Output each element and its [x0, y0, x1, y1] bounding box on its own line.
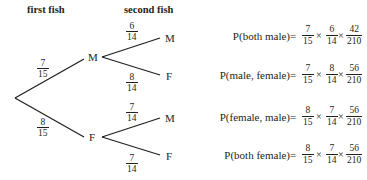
fraction-2: 814 — [326, 63, 338, 85]
fraction-1: 815 — [302, 105, 314, 127]
equation-lhs: P(both female) — [224, 149, 290, 161]
times-sign: × — [316, 149, 322, 160]
equation-lhs: P(male, female) — [220, 69, 290, 81]
times-sign: × — [338, 30, 344, 41]
equation-male-female: P(male, female) = 715 × 814 × 56210 — [0, 63, 367, 89]
fraction-3: 56210 — [346, 63, 362, 85]
times-sign: × — [338, 69, 344, 80]
fraction-3: 56210 — [346, 105, 362, 127]
equals-sign: = — [290, 69, 296, 81]
node-first-m: M — [88, 52, 98, 63]
fraction-3: 42210 — [346, 24, 362, 46]
times-sign: × — [338, 149, 344, 160]
fraction-1: 715 — [302, 24, 314, 46]
equals-sign: = — [290, 149, 296, 161]
fraction-3: 56210 — [346, 143, 362, 165]
times-sign: × — [338, 111, 344, 122]
equals-sign: = — [290, 30, 296, 42]
equation-both-female: P(both female) = 815 × 714 × 56210 — [0, 143, 367, 169]
equation-lhs: P(both male) — [233, 30, 290, 42]
fraction-2: 714 — [326, 105, 338, 127]
times-sign: × — [316, 69, 322, 80]
times-sign: × — [316, 30, 322, 41]
fraction-1: 815 — [302, 143, 314, 165]
equation-both-male: P(both male) = 715 × 614 × 42210 — [0, 24, 367, 50]
equals-sign: = — [290, 111, 296, 123]
equation-lhs: P(female, male) — [220, 111, 290, 123]
times-sign: × — [316, 111, 322, 122]
fraction-1: 715 — [302, 63, 314, 85]
node-first-f: F — [89, 132, 95, 143]
fraction-2: 714 — [326, 143, 338, 165]
fraction-2: 614 — [326, 24, 338, 46]
equation-female-male: P(female, male) = 815 × 714 × 56210 — [0, 105, 367, 131]
